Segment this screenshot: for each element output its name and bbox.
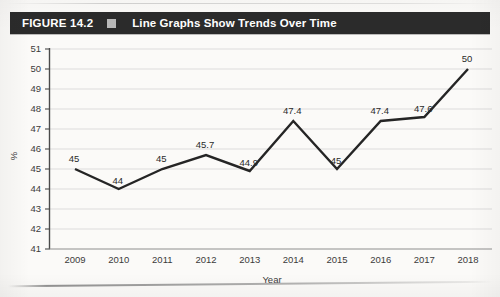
figure-title-banner: FIGURE 14.2 Line Graphs Show Trends Over… (10, 12, 490, 34)
y-tick-label: 50 (30, 63, 41, 74)
y-tick-label: 46 (30, 143, 41, 154)
data-point-label: 50 (462, 53, 473, 64)
x-tick-label: 2013 (239, 254, 260, 265)
figure-number-label: FIGURE 14.2 (22, 17, 93, 29)
x-tick-label: 2016 (370, 254, 391, 265)
y-tick-label: 42 (30, 223, 41, 234)
x-tick-label: 2010 (108, 254, 129, 265)
x-tick-label: 2009 (64, 254, 85, 265)
data-point-label: 47.6 (414, 103, 433, 114)
y-tick-label: 48 (30, 103, 41, 114)
y-tick-label: 51 (30, 43, 41, 54)
x-tick-label-group: 2009201020112012201320142015201620172018 (64, 254, 478, 265)
y-tick-label: 47 (30, 123, 41, 134)
line-chart-svg: 4142434445464748495051 45444545.744.947.… (0, 36, 500, 288)
data-point-label: 45 (69, 153, 80, 164)
filled-square-icon (107, 19, 116, 28)
y-tick-label: 41 (30, 243, 41, 254)
y-axis-title: % (8, 151, 19, 160)
x-tick-label: 2012 (195, 254, 216, 265)
data-point-label: 44.9 (239, 157, 258, 168)
y-tick-label: 44 (30, 183, 41, 194)
x-tick-label: 2015 (326, 254, 347, 265)
x-tick-label: 2014 (283, 254, 304, 265)
chart-plot-area: 4142434445464748495051 45444545.744.947.… (0, 36, 500, 288)
y-tick-label: 43 (30, 203, 41, 214)
data-point-label: 45 (156, 153, 167, 164)
figure-container: FIGURE 14.2 Line Graphs Show Trends Over… (0, 0, 500, 297)
y-tick-label: 49 (30, 83, 41, 94)
y-tick-label: 45 (30, 163, 41, 174)
data-point-label: 47.4 (283, 105, 302, 116)
data-point-label: 45 (331, 155, 342, 166)
x-tick-label: 2011 (152, 254, 172, 265)
data-point-label: 44 (112, 175, 123, 186)
figure-title-text: Line Graphs Show Trends Over Time (132, 17, 336, 29)
y-tick-label-group: 4142434445464748495051 (30, 43, 41, 254)
data-point-label-group: 45444545.744.947.44547.447.650 (69, 53, 473, 186)
x-tick-label: 2018 (457, 254, 478, 265)
x-axis-title: Year (262, 274, 281, 285)
data-point-label: 45.7 (196, 139, 215, 150)
x-tick-label: 2017 (414, 254, 435, 265)
gridline-group (50, 49, 492, 229)
data-point-label: 47.4 (370, 105, 389, 116)
scan-artifact-top (6, 3, 496, 4)
